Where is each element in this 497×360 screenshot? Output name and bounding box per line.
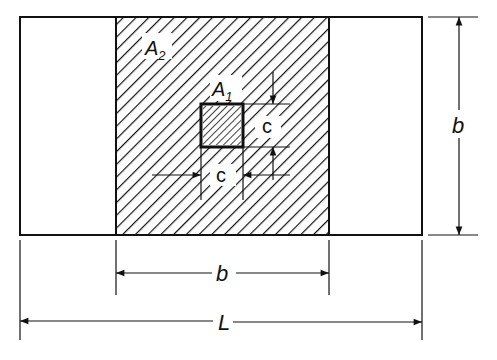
label-c-horizontal: c [216, 164, 226, 186]
label-c-vertical: c [262, 115, 272, 137]
label-b-bottom: b [216, 261, 228, 286]
footing-diagram: A2 A1 c c b b L [0, 0, 497, 360]
label-L: L [218, 310, 230, 335]
label-b-right: b [452, 113, 464, 138]
